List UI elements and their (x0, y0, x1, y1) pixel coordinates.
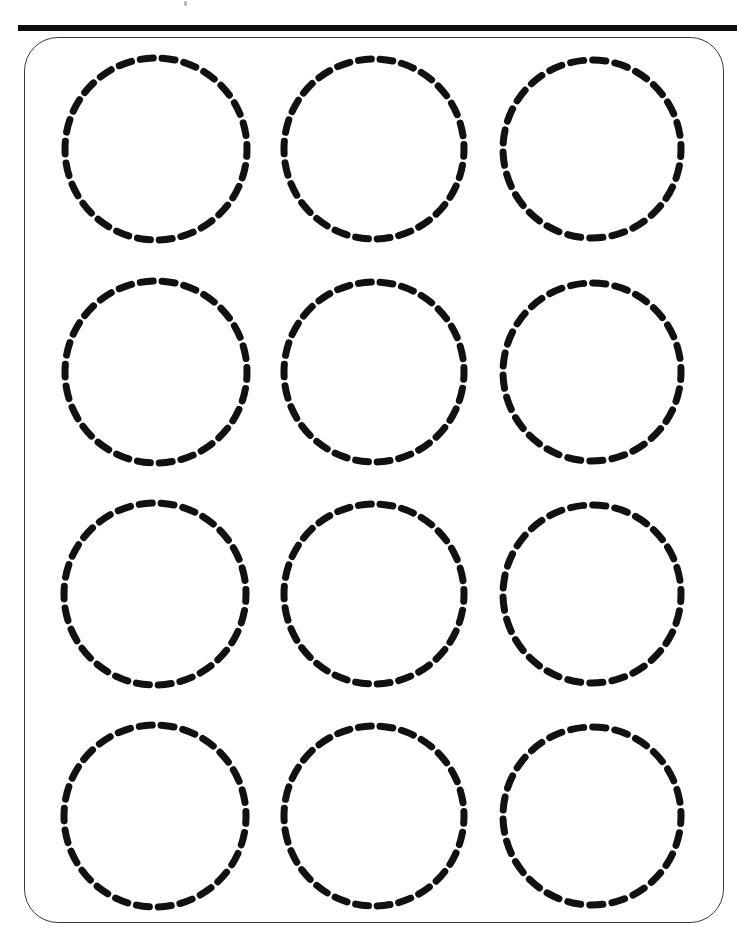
worksheet-frame (24, 37, 724, 923)
worksheet-page (0, 0, 745, 934)
header-rule (18, 25, 737, 31)
scan-artifact-speck (184, 1, 187, 6)
